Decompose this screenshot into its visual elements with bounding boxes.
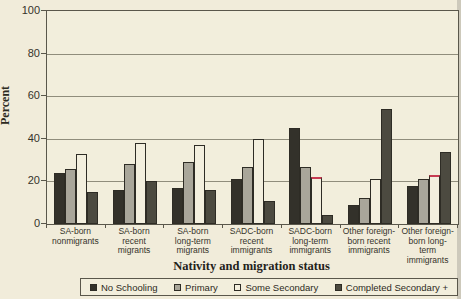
legend-item: Completed Secondary + xyxy=(335,282,448,293)
bar xyxy=(135,143,146,224)
bar xyxy=(359,198,370,224)
legend-label: Primary xyxy=(185,282,218,293)
legend-swatch-icon xyxy=(90,284,97,291)
bar xyxy=(113,190,124,224)
scanned-bar-chart-figure: Percent 020406080100 SA-born nonmigrants… xyxy=(0,0,461,299)
bar xyxy=(429,175,440,224)
bar xyxy=(242,167,253,225)
category-label: SA-born recent migrants xyxy=(105,227,164,256)
y-tick-label: 100 xyxy=(6,5,40,16)
legend-swatch-icon xyxy=(234,284,241,291)
legend-item: Primary xyxy=(174,282,218,293)
x-axis-title: Nativity and migration status xyxy=(46,259,457,274)
legend-item: No Schooling xyxy=(90,282,158,293)
y-tick-mark xyxy=(41,95,46,96)
category-label: Other foreign- born recent immigrants xyxy=(340,227,399,256)
bar xyxy=(381,109,392,224)
y-tick-label: 60 xyxy=(6,90,40,101)
bar xyxy=(54,173,65,224)
category-label: SA-born long-term migrants xyxy=(163,227,222,256)
category-label: SADC-born long-term immigrants xyxy=(281,227,340,256)
bar xyxy=(370,179,381,224)
category-label: SADC-born recent immigrants xyxy=(222,227,281,256)
bar xyxy=(65,169,76,224)
bar xyxy=(418,179,429,224)
y-tick-label: 20 xyxy=(6,175,40,186)
bar xyxy=(231,179,242,224)
y-tick-mark xyxy=(41,180,46,181)
legend-label: No Schooling xyxy=(101,282,158,293)
bar xyxy=(348,205,359,224)
bar xyxy=(76,154,87,224)
y-tick-label: 40 xyxy=(6,133,40,144)
bar xyxy=(253,139,264,224)
legend: No SchoolingPrimarySome SecondaryComplet… xyxy=(80,278,458,296)
y-tick-mark xyxy=(41,138,46,139)
x-tick-mark xyxy=(457,224,458,228)
y-axis-title: Percent xyxy=(0,111,35,125)
bar xyxy=(311,177,322,224)
bar xyxy=(205,190,216,224)
plot-area xyxy=(46,10,459,225)
legend-item: Some Secondary xyxy=(234,282,318,293)
bar xyxy=(300,167,311,225)
gridline-60 xyxy=(47,96,458,97)
bar xyxy=(289,128,300,224)
bar xyxy=(322,215,333,224)
y-tick-mark xyxy=(41,53,46,54)
bar xyxy=(124,164,135,224)
bar xyxy=(440,152,451,224)
legend-label: Completed Secondary + xyxy=(346,282,448,293)
bar xyxy=(146,181,157,224)
category-label: SA-born nonmigrants xyxy=(46,227,105,246)
legend-swatch-icon xyxy=(174,284,181,291)
legend-label: Some Secondary xyxy=(245,282,318,293)
bar xyxy=(172,188,183,224)
bar xyxy=(194,145,205,224)
y-tick-mark xyxy=(41,10,46,11)
bar xyxy=(87,192,98,224)
bar xyxy=(183,162,194,224)
bar xyxy=(407,186,418,224)
y-tick-label: 0 xyxy=(6,218,40,229)
y-tick-label: 80 xyxy=(6,48,40,59)
gridline-80 xyxy=(47,54,458,55)
bar xyxy=(264,201,275,224)
legend-swatch-icon xyxy=(335,284,342,291)
